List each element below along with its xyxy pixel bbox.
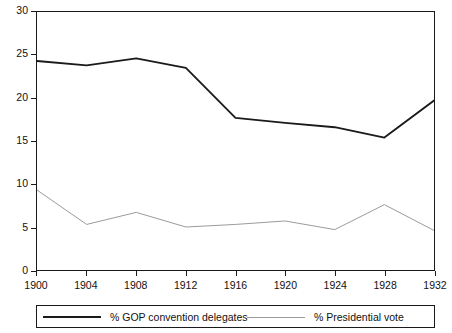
chart-legend: % GOP convention delegates % Presidentia… <box>36 305 435 328</box>
x-tick-mark <box>285 271 286 276</box>
legend-line-swatch-dark-icon <box>43 312 101 322</box>
series-lines <box>37 58 434 230</box>
x-tick-mark <box>385 271 386 276</box>
y-tick-label: 5 <box>22 222 28 233</box>
legend-label-presidential-vote: % Presidential vote <box>314 311 404 323</box>
plot-area <box>36 11 435 271</box>
x-tick-label: 1908 <box>124 279 147 291</box>
x-tick-label: 1900 <box>24 279 47 291</box>
y-tick-label: 25 <box>16 48 28 59</box>
x-tick-mark <box>435 271 436 276</box>
y-tick-label: 30 <box>16 5 28 16</box>
legend-entry-gop-delegates: % GOP convention delegates <box>43 306 248 327</box>
x-tick-label: 1932 <box>423 279 446 291</box>
x-tick-label: 1916 <box>224 279 247 291</box>
x-tick-mark <box>36 271 37 276</box>
x-tick-label: 1928 <box>373 279 396 291</box>
x-tick-mark <box>86 271 87 276</box>
legend-label-gop-delegates: % GOP convention delegates <box>110 311 248 323</box>
x-tick-mark <box>335 271 336 276</box>
y-tick-label: 15 <box>16 135 28 146</box>
x-tick-mark <box>136 271 137 276</box>
line-chart: 051015202530 190019041908191219161920192… <box>0 0 452 333</box>
x-axis: 190019041908191219161920192419281932 <box>0 271 452 297</box>
x-tick-label: 1912 <box>174 279 197 291</box>
x-tick-mark <box>236 271 237 276</box>
plot-svg <box>37 12 434 270</box>
series-line-gop-delegates <box>37 58 434 137</box>
y-tick-label: 10 <box>16 178 28 189</box>
y-tick-label: 20 <box>16 92 28 103</box>
legend-line-swatch-light-icon <box>247 312 305 322</box>
x-tick-label: 1920 <box>274 279 297 291</box>
x-tick-label: 1924 <box>324 279 347 291</box>
legend-entry-presidential-vote: % Presidential vote <box>247 306 404 327</box>
x-tick-label: 1904 <box>74 279 97 291</box>
x-tick-mark <box>186 271 187 276</box>
series-line-presidential-vote <box>37 190 434 230</box>
